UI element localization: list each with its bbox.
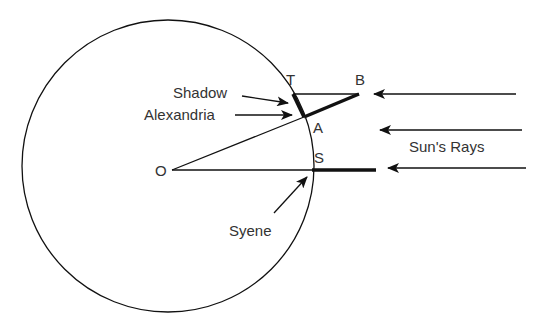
label-b: B	[355, 71, 365, 88]
label-t: T	[286, 71, 295, 88]
label-sun-rays: Sun's Rays	[409, 138, 484, 155]
label-s: S	[314, 149, 324, 166]
label-shadow: Shadow	[173, 84, 227, 101]
eratosthenes-diagram: T B A S O Shadow Alexandria Syene Sun's …	[0, 0, 542, 329]
radius-to-alexandria	[172, 117, 304, 170]
label-syene: Syene	[229, 222, 272, 239]
shadow-pointer-arrow	[242, 96, 288, 103]
label-alexandria: Alexandria	[144, 106, 216, 123]
label-a: A	[313, 119, 323, 136]
earth-circle	[22, 20, 314, 312]
label-o: O	[155, 162, 167, 179]
gnomon-alexandria	[293, 94, 304, 117]
syene-pointer-arrow	[274, 177, 307, 213]
ray-a-b	[304, 94, 359, 117]
